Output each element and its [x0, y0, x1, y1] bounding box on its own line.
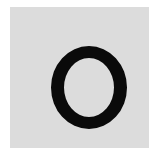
letter-o-glyph — [51, 46, 127, 129]
letter-card: O — [10, 7, 149, 148]
letter-label: O — [10, 7, 11, 8]
